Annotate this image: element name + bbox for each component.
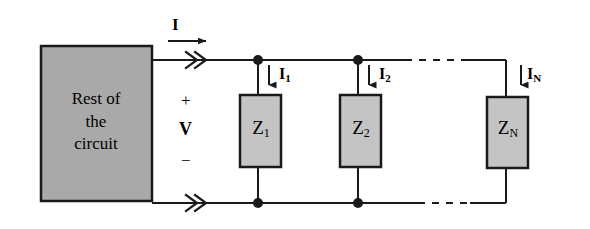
source-block-label: Rest of the circuit (42, 88, 150, 156)
total-current-label: I (172, 16, 179, 33)
branch-2-impedance-symbol: Z (352, 117, 364, 138)
branch-N-impedance-label: ZN (487, 118, 529, 139)
terminal-polarity-minus-label: − (181, 152, 191, 169)
source-block-label-line-3: circuit (42, 133, 150, 156)
circuit-diagram-figure: Rest of the circuit I + V − I1 I2 IN Z1 … (0, 0, 590, 229)
branch-N-impedance-subscript: N (509, 126, 518, 140)
branch-1-impedance-symbol: Z (252, 117, 264, 138)
branch-2-current-label: I2 (379, 66, 391, 84)
terminal-polarity-plus-label: + (181, 92, 191, 109)
branch-2-impedance-subscript: 2 (364, 126, 370, 140)
branch-N-impedance-symbol: Z (498, 117, 510, 138)
source-block-label-line-1: Rest of (42, 88, 150, 111)
branch-1-current-subscript: 1 (285, 72, 291, 84)
branch-1-current-label: I1 (279, 66, 291, 84)
terminal-voltage-label: V (179, 120, 192, 138)
branch-N-current-subscript: N (533, 72, 541, 84)
branch-2-bottom-node-dot (353, 198, 363, 208)
branch-2-impedance-label: Z2 (340, 118, 382, 139)
source-block-label-line-2: the (42, 111, 150, 134)
branch-1-top-node-dot (253, 55, 263, 65)
branch-N-current-label: IN (527, 66, 541, 84)
branch-1-impedance-label: Z1 (240, 118, 282, 139)
branch-1-impedance-subscript: 1 (264, 126, 270, 140)
branch-1-bottom-node-dot (253, 198, 263, 208)
branch-2-top-node-dot (353, 55, 363, 65)
branch-2-current-subscript: 2 (385, 72, 391, 84)
